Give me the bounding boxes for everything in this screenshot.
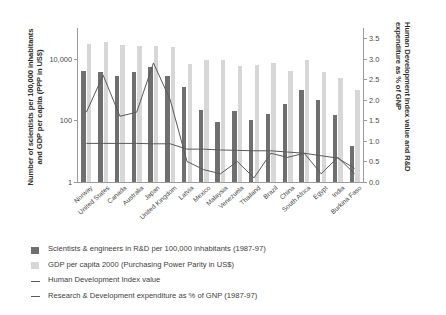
y-tick-left [74,59,77,60]
legend-label: Research & Development expenditure as % … [48,291,257,300]
y-tick-label-left: 10,000 [49,54,72,63]
legend-item: Human Development Index value [31,274,431,290]
y-tick-right [364,59,367,60]
plot-area: 110010,000 0.00.51.01.52.02.53.03.5 [78,28,363,182]
legend-swatch [31,262,39,269]
y-axis-right-line [363,28,364,182]
legend-label: Human Development Index value [48,275,160,284]
y-tick-label-right: 2.0 [369,95,379,104]
x-axis-category-labels: NorwayUnited StatesCanadaAustraliaJapanU… [78,184,363,240]
y-tick-label-right: 0.5 [369,157,379,166]
legend-label: Scientists & engineers in R&D per 100,00… [48,244,266,253]
line-hdi [86,143,354,168]
y-tick-right [364,120,367,121]
y-tick-label-right: 1.5 [369,116,379,125]
y-tick-left [74,120,77,121]
legend-item: Research & Development expenditure as % … [31,290,431,306]
y-tick-right [364,100,367,101]
legend-label: GDP per capita 2000 (Purchasing Power Pa… [48,260,234,269]
x-axis-line [77,182,364,183]
y-axis-label-left: Number of scientists per 100,000 inhabit… [26,28,44,186]
y-axis-label-right: Human Development Index value and R&D ex… [394,22,412,194]
y-tick-label-left: 100 [60,116,72,125]
legend-line-marker [31,281,40,282]
x-axis-label: Egypt [312,184,329,200]
y-tick-label-right: 1.0 [369,136,379,145]
line-rd-expenditure [86,63,354,178]
chart-legend: Scientists & engineers in R&D per 100,00… [31,243,431,305]
y-tick-label-right: 0.0 [369,178,379,187]
legend-line-marker [31,296,40,297]
legend-item: GDP per capita 2000 (Purchasing Power Pa… [31,259,431,275]
line-series-group [78,28,363,182]
legend-swatch [31,247,39,254]
y-tick-left [74,182,77,183]
y-tick-right [364,38,367,39]
y-tick-right [364,161,367,162]
y-tick-right [364,182,367,183]
chart-figure: Number of scientists per 100,000 inhabit… [0,0,446,315]
y-tick-right [364,79,367,80]
y-tick-label-left: 1 [68,178,72,187]
y-tick-right [364,141,367,142]
y-tick-label-right: 3.5 [369,34,379,43]
x-axis-label: Brazil [262,184,279,200]
y-tick-label-right: 2.5 [369,75,379,84]
legend-item: Scientists & engineers in R&D per 100,00… [31,243,431,259]
y-tick-label-right: 3.0 [369,54,379,63]
